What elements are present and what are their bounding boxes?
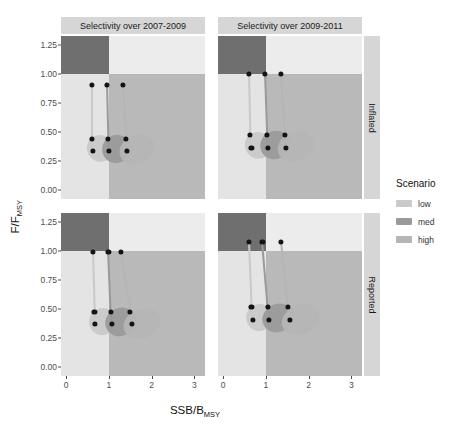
plot-panel bbox=[61, 213, 205, 376]
x-tick-mark bbox=[266, 376, 267, 379]
y-tick-label: 0.00 bbox=[23, 185, 57, 195]
x-tick-label: 2 bbox=[149, 380, 154, 390]
x-tick-label: 3 bbox=[349, 380, 354, 390]
x-tick-label: 0 bbox=[64, 380, 69, 390]
x-tick-label: 3 bbox=[192, 380, 197, 390]
plot-panel bbox=[61, 36, 205, 199]
y-tick-label: 1.00 bbox=[23, 246, 57, 256]
plot-panel bbox=[218, 213, 362, 376]
legend-item-label: low bbox=[418, 199, 431, 209]
x-tick-mark bbox=[109, 376, 110, 379]
x-tick-mark bbox=[351, 376, 352, 379]
y-tick-label: 0.00 bbox=[23, 362, 57, 372]
legend-item[interactable]: high bbox=[396, 232, 457, 247]
legend-item-label: med bbox=[418, 217, 435, 227]
y-tick-label: 1.25 bbox=[23, 217, 57, 227]
x-tick-mark bbox=[223, 376, 224, 379]
kobe-quadrant bbox=[109, 36, 205, 74]
legend-item[interactable]: low bbox=[396, 196, 457, 211]
legend-key-swatch bbox=[396, 218, 412, 225]
y-tick-label: 0.50 bbox=[23, 127, 57, 137]
x-tick-mark bbox=[152, 376, 153, 379]
x-tick-label: 1 bbox=[263, 380, 268, 390]
x-tick-mark bbox=[194, 376, 195, 379]
y-tick-label: 0.50 bbox=[23, 304, 57, 314]
facet-strip-row-label: Reported bbox=[367, 276, 377, 313]
x-tick-label: 2 bbox=[306, 380, 311, 390]
trajectory-segment bbox=[91, 85, 93, 139]
facet-strip-row: Reported bbox=[364, 213, 380, 376]
kobe-quadrant bbox=[266, 36, 362, 74]
kobe-quadrant bbox=[61, 36, 109, 74]
facet-strip-column: Selectivity over 2009-2011 bbox=[218, 17, 362, 34]
legend: Scenario lowmedhigh bbox=[396, 178, 457, 250]
legend-item-label: high bbox=[418, 235, 434, 245]
y-tick-label: 1.25 bbox=[23, 40, 57, 50]
kobe-quadrant bbox=[218, 36, 266, 74]
facet-strip-column: Selectivity over 2007-2009 bbox=[61, 17, 205, 34]
legend-item[interactable]: med bbox=[396, 214, 457, 229]
x-axis-title: SSB/BMSY bbox=[0, 404, 390, 419]
x-tick-mark bbox=[309, 376, 310, 379]
legend-key-swatch bbox=[396, 200, 412, 207]
x-tick-mark bbox=[66, 376, 67, 379]
facet-strip-row: Inflated bbox=[364, 36, 380, 199]
facet-strip-row-label: Inflated bbox=[367, 103, 377, 133]
y-tick-label: 0.25 bbox=[23, 156, 57, 166]
plot-panel bbox=[218, 36, 362, 199]
kobe-quadrant bbox=[218, 213, 266, 251]
y-tick-label: 0.25 bbox=[23, 333, 57, 343]
legend-title: Scenario bbox=[396, 178, 457, 189]
kobe-quadrant bbox=[61, 213, 109, 251]
x-tick-label: 1 bbox=[106, 380, 111, 390]
y-tick-label: 0.75 bbox=[23, 275, 57, 285]
legend-key-swatch bbox=[396, 236, 412, 243]
y-tick-label: 0.75 bbox=[23, 98, 57, 108]
x-tick-label: 0 bbox=[221, 380, 226, 390]
kobe-quadrant bbox=[109, 213, 205, 251]
y-tick-label: 1.00 bbox=[23, 69, 57, 79]
